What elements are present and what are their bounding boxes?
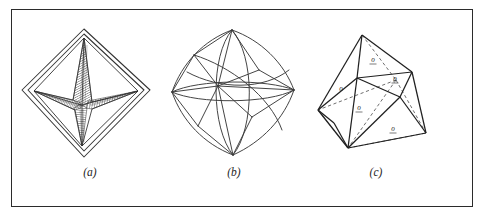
face-label-front-lower-left: o [356,104,363,112]
figure-a-caption: (a) [14,166,166,178]
figure-b-latitude-arc [187,70,289,85]
figure-b-triangle-edges [172,30,294,155]
face-label-text: o [339,85,343,93]
face-label-left: o [339,85,343,93]
figure-plate: (a) [0,0,486,224]
figure-c-caption: (c) [300,166,452,178]
figure-b-caption: (b) [158,166,310,178]
figure-a-octahedron-skeletal-star [14,18,166,168]
face-label-front-lower-right: o [390,125,397,133]
face-label-text: o [393,75,397,83]
figure-c-visible-edges [318,35,426,148]
face-label-upper-rear: o [370,56,377,64]
face-label-text: o [371,56,375,64]
figure-b-spherical-octahedron [158,18,310,168]
figure-b-outer-silhouette [172,30,294,155]
face-label-text: o [357,104,361,112]
figure-c-face-labels: o o o o o [339,56,398,133]
face-label-text: o [391,125,395,133]
figure-b-oblique-circle-1 [191,55,282,138]
figure-c-octahedron-clinographic: o o o o o [300,18,452,168]
